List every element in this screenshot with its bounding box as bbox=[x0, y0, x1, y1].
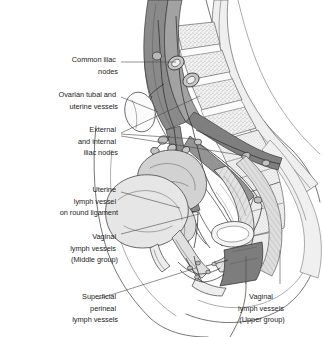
label-uterine-lymph-vessel-round-ligament: Uterine lymph vessel on round ligament bbox=[60, 185, 118, 217]
label-ovarian-tubal-uterine-vessels: Ovarian tubal and uterine vessels bbox=[58, 90, 118, 111]
label-vaginal-lymph-vessels-middle: Vaginal lymph vessels (Middle group) bbox=[70, 232, 118, 264]
pelvis-lymphatic-illustration: Common iliac nodes Ovarian tubal and ute… bbox=[0, 0, 323, 337]
label-external-internal-iliac-nodes: External and internal iliac nodes bbox=[78, 125, 118, 157]
anatomical-figure: Common iliac nodes Ovarian tubal and ute… bbox=[0, 0, 323, 337]
label-superficial-perineal-lymph-vessels: Superficial perineal lymph vessels bbox=[72, 292, 118, 324]
para-aortic-node bbox=[152, 52, 161, 60]
label-common-iliac-nodes: Common iliac nodes bbox=[72, 55, 119, 76]
